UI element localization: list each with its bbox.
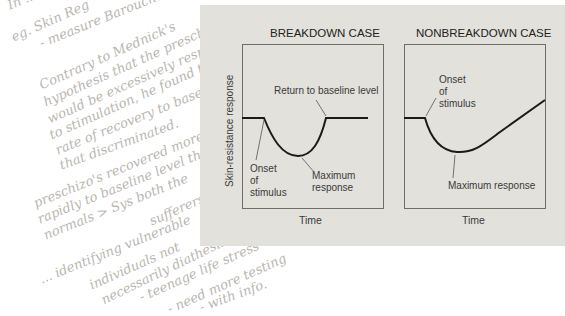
return-pointer xyxy=(316,100,326,116)
onset-pointer xyxy=(256,120,264,160)
max-pointer xyxy=(302,158,314,172)
onset-pointer xyxy=(426,98,436,116)
max-pointer xyxy=(453,155,455,178)
nonbreakdown-curve xyxy=(404,100,545,152)
response-curves xyxy=(0,0,565,316)
